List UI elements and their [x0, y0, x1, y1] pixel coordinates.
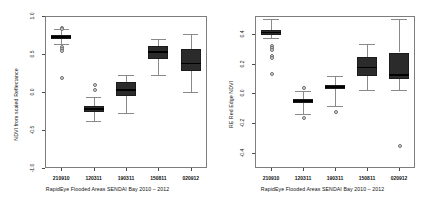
panel-caption: RapidEye Flooded Areas SENDAI Bay 2010 –…	[215, 186, 430, 192]
y-axis-tick-label: -0.2	[239, 114, 245, 132]
x-axis-tick-mark	[61, 168, 62, 171]
x-axis-tick-mark	[94, 168, 95, 171]
y-axis-tick-mark	[252, 34, 255, 35]
boxplot-panel-ndvi: NDVI from scaled Reflectance 1.00.50.0-0…	[0, 0, 215, 209]
whisker-line	[191, 34, 192, 49]
whisker-line	[367, 44, 368, 57]
outlier-point	[270, 72, 274, 76]
whisker-cap	[295, 91, 310, 92]
y-axis-tick-label: -1.0	[29, 159, 35, 177]
whisker-cap	[391, 90, 406, 91]
whisker-line	[158, 59, 159, 74]
whisker-line	[271, 19, 272, 30]
x-axis-tick-mark	[303, 168, 304, 171]
x-axis-tick-mark	[158, 168, 159, 171]
whisker-line	[94, 97, 95, 106]
y-axis-tick-label: 0.5	[29, 45, 35, 63]
whisker-cap	[263, 19, 278, 20]
x-axis-tick-mark	[335, 168, 336, 171]
outlier-point	[93, 83, 97, 87]
whisker-line	[303, 91, 304, 99]
x-axis-tick-label: 210910	[255, 175, 287, 181]
whisker-line	[335, 89, 336, 106]
x-axis-tick-label: 020912	[383, 175, 415, 181]
x-axis-tick-label: 210910	[45, 175, 77, 181]
outlier-point	[270, 48, 274, 52]
y-axis-tick-mark	[42, 168, 45, 169]
y-axis-label: NDVI from scaled Reflectance	[9, 0, 23, 209]
x-axis-tick-label: 190311	[319, 175, 351, 181]
x-axis-tick-mark	[367, 168, 368, 171]
median-line	[148, 51, 168, 53]
y-axis-label: RE Red Edge NDVI	[224, 0, 238, 209]
x-axis-tick-label: 190311	[110, 175, 142, 181]
y-axis-label-container: NDVI from scaled Reflectance	[9, 0, 23, 209]
y-axis-tick-label: -0.5	[29, 121, 35, 139]
y-axis-tick-label: 0.0	[239, 84, 245, 102]
x-axis-tick-label: 120311	[287, 175, 319, 181]
whisker-line	[158, 39, 159, 47]
whisker-cap	[295, 114, 310, 115]
y-axis-tick-label: 0.4	[239, 25, 245, 43]
x-axis-tick-label: 150811	[142, 175, 174, 181]
box	[181, 49, 201, 71]
whisker-cap	[183, 92, 198, 93]
whisker-cap	[391, 19, 406, 20]
y-axis-tick-mark	[252, 123, 255, 124]
outlier-point	[302, 116, 306, 120]
x-axis-tick-label: 150811	[351, 175, 383, 181]
median-line	[116, 89, 136, 91]
y-axis-tick-label: -0.4	[239, 144, 245, 162]
y-axis-tick-mark	[42, 130, 45, 131]
whisker-cap	[327, 76, 342, 77]
outlier-point	[270, 56, 274, 60]
y-axis-tick-mark	[42, 16, 45, 17]
outlier-point	[398, 144, 402, 148]
x-axis-tick-mark	[191, 168, 192, 171]
whisker-line	[399, 19, 400, 53]
whisker-cap	[359, 44, 374, 45]
median-line	[84, 108, 104, 110]
whisker-cap	[327, 106, 342, 107]
x-axis-tick-mark	[126, 168, 127, 171]
outlier-point	[60, 76, 64, 80]
whisker-line	[94, 112, 95, 121]
whisker-cap	[183, 34, 198, 35]
y-axis-tick-mark	[252, 93, 255, 94]
median-line	[357, 67, 377, 69]
y-axis-tick-mark	[42, 92, 45, 93]
whisker-line	[303, 103, 304, 113]
outlier-point	[93, 88, 97, 92]
whisker-cap	[151, 75, 166, 76]
whisker-line	[126, 75, 127, 82]
panel-caption: RapidEye Flooded Areas SENDAI Bay 2010 –…	[0, 186, 215, 192]
x-axis-tick-mark	[271, 168, 272, 171]
median-line	[325, 86, 345, 88]
y-axis-tick-label: 0.0	[29, 83, 35, 101]
whisker-cap	[86, 121, 101, 122]
y-axis-tick-label: 1.0	[29, 7, 35, 25]
whisker-cap	[118, 75, 133, 76]
y-axis-tick-label: 0.2	[239, 55, 245, 73]
y-axis-label-container: RE Red Edge NDVI	[224, 0, 238, 209]
boxplot-panel-red-edge: RE Red Edge NDVI 0.40.20.0-0.2-0.4210910…	[215, 0, 430, 209]
whisker-line	[191, 71, 192, 92]
whisker-line	[399, 79, 400, 89]
median-line	[51, 36, 71, 38]
x-axis-tick-label: 020912	[175, 175, 207, 181]
x-axis-tick-mark	[399, 168, 400, 171]
whisker-line	[367, 76, 368, 89]
outlier-point	[302, 86, 306, 90]
y-axis-tick-mark	[42, 54, 45, 55]
y-axis-tick-mark	[252, 64, 255, 65]
median-line	[181, 63, 201, 65]
whisker-cap	[359, 90, 374, 91]
figure-container: NDVI from scaled Reflectance 1.00.50.0-0…	[0, 0, 430, 209]
outlier-point	[334, 110, 338, 114]
whisker-line	[126, 96, 127, 112]
x-axis-tick-label: 120311	[78, 175, 110, 181]
whisker-cap	[118, 113, 133, 114]
whisker-cap	[151, 39, 166, 40]
median-line	[293, 100, 313, 102]
whisker-cap	[86, 97, 101, 98]
